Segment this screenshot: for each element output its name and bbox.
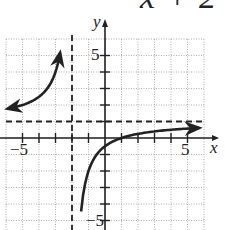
x-axis-label: x bbox=[209, 138, 218, 157]
y-axis-arrow-icon bbox=[102, 19, 108, 27]
graph: xy−555−5 bbox=[0, 0, 225, 230]
x-tick-label-neg5: −5 bbox=[10, 140, 28, 159]
x-tick-label-5: 5 bbox=[181, 140, 190, 159]
left-branch-curve bbox=[8, 53, 61, 109]
y-axis-label: y bbox=[91, 12, 101, 31]
y-tick-label-5: 5 bbox=[91, 45, 100, 64]
axes bbox=[0, 19, 219, 230]
y-tick-label-neg5: −5 bbox=[86, 211, 104, 230]
